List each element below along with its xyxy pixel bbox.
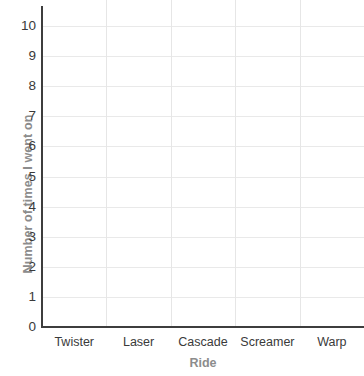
bar-chart: Number of times I went on 012345678910 T…	[0, 0, 364, 376]
gridline-horizontal	[42, 207, 364, 208]
gridline-horizontal	[42, 116, 364, 117]
gridline-vertical	[235, 0, 236, 327]
gridline-horizontal	[42, 26, 364, 27]
gridline-vertical	[171, 0, 172, 327]
y-axis-tick-label: 8	[16, 79, 36, 93]
y-axis-tick-label: 2	[16, 260, 36, 274]
gridline-horizontal	[42, 177, 364, 178]
x-axis-title: Ride	[42, 356, 364, 370]
gridline-horizontal	[42, 86, 364, 87]
y-axis-line	[41, 6, 43, 328]
gridline-horizontal	[42, 267, 364, 268]
y-axis-tick-label: 1	[16, 290, 36, 304]
y-axis-tick-label: 6	[16, 139, 36, 153]
y-axis-tick-label: 10	[16, 19, 36, 33]
x-axis-tick-label: Screamer	[235, 332, 299, 352]
x-axis-line	[41, 326, 364, 328]
y-axis-tick-label: 9	[16, 49, 36, 63]
plot-area	[42, 10, 364, 327]
gridline-horizontal	[42, 56, 364, 57]
x-axis-tick-label: Warp	[300, 332, 364, 352]
x-axis-tick-label: Twister	[42, 332, 106, 352]
gridline-horizontal	[42, 237, 364, 238]
y-axis-tick-label: 5	[16, 170, 36, 184]
gridline-horizontal	[42, 297, 364, 298]
y-axis-tick-label: 0	[16, 320, 36, 334]
gridline-vertical	[106, 0, 107, 327]
y-axis-tick-label: 7	[16, 109, 36, 123]
x-axis-tick-label: Cascade	[171, 332, 235, 352]
gridline-horizontal	[42, 146, 364, 147]
x-axis-tick-label: Laser	[106, 332, 170, 352]
x-axis-tick-labels: TwisterLaserCascadeScreamerWarp	[42, 332, 364, 352]
y-axis-tick-label: 3	[16, 230, 36, 244]
y-axis-tick-label: 4	[16, 200, 36, 214]
gridlines	[42, 10, 364, 327]
gridline-vertical	[300, 0, 301, 327]
y-axis-tick-labels: 012345678910	[16, 0, 36, 376]
